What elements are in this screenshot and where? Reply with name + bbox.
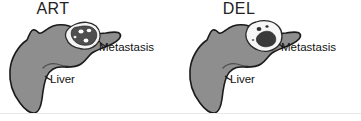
metastasis-speckle-art-4 [74,36,77,38]
metastasis-satellite-del-2 [265,25,268,28]
metastasis-speckle-art-2 [87,29,92,33]
panel-del-illustration [180,0,360,121]
metastasis-satellite-del-3 [252,39,255,41]
panel-del: DEL Metastasis [180,0,360,121]
liver-comparison-figure: ART Metast [0,0,361,121]
metastasis-label-del: Metastasis [281,41,336,53]
liver-shape-del [190,25,301,113]
panel-art: ART Metast [0,0,180,121]
liver-label-art: Liver [50,73,75,85]
liver-svg-del [180,0,360,121]
liver-svg-art [0,0,180,121]
metastasis-speckle-art-1 [78,30,83,34]
liver-label-del: Liver [230,73,255,85]
panel-art-illustration [0,0,180,121]
liver-shape-art [10,25,121,113]
metastasis-label-art: Metastasis [99,41,154,53]
metastasis-speckle-art-3 [84,39,89,43]
figure-baseline [0,113,361,114]
metastasis-satellite-del-1 [257,27,262,31]
